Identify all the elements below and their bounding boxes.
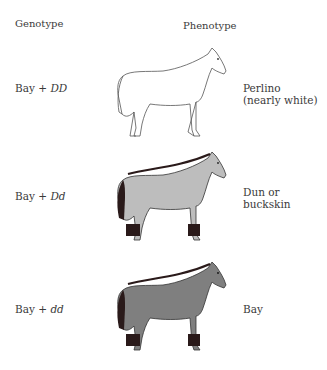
horse-illustration-bay	[108, 258, 232, 358]
genotype-alleles: dd	[50, 303, 63, 315]
phenotype-label-perlino: Perlino (nearly white)	[243, 82, 318, 106]
phenotype-line2: (nearly white)	[243, 94, 318, 106]
genotype-label-dd-dominant: Bay + DD	[15, 82, 67, 94]
phenotype-header: Phenotype	[183, 20, 237, 31]
phenotype-line1: Bay	[243, 303, 263, 315]
genotype-label-dd-recessive: Bay + dd	[15, 303, 64, 315]
phenotype-line1: Perlino	[243, 82, 318, 94]
genotype-base: Bay +	[15, 303, 50, 315]
genotype-base: Bay +	[15, 190, 50, 202]
horse-illustration-dun	[108, 148, 232, 248]
genotype-alleles: Dd	[50, 190, 65, 202]
horse-bay-icon	[108, 258, 232, 358]
horse-illustration-perlino	[108, 44, 232, 144]
phenotype-line1: Dun or	[243, 186, 291, 198]
phenotype-label-bay: Bay	[243, 303, 263, 315]
genotype-header: Genotype	[15, 18, 63, 29]
horse-dun-icon	[108, 148, 232, 248]
genotype-alleles: DD	[50, 82, 67, 94]
phenotype-line2: buckskin	[243, 198, 291, 210]
genotype-base: Bay +	[15, 82, 50, 94]
genotype-label-dd-heterozygous: Bay + Dd	[15, 190, 66, 202]
phenotype-label-dun: Dun or buckskin	[243, 186, 291, 210]
horse-perlino-icon	[108, 44, 232, 144]
